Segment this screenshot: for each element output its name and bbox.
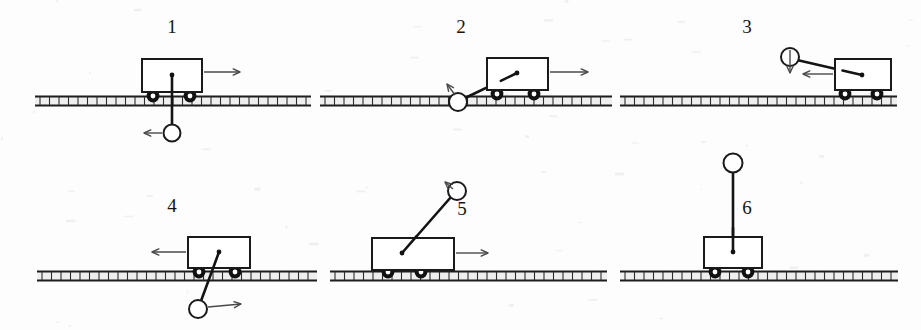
scan-speck <box>701 141 705 143</box>
scan-speck <box>541 171 546 173</box>
rail-body <box>37 272 317 281</box>
scan-speck <box>906 46 909 47</box>
scan-speck <box>864 254 870 257</box>
scan-speck <box>134 9 141 12</box>
cart-body <box>372 238 454 270</box>
panel-number-label: 2 <box>456 16 466 37</box>
cart-wheel-hub-2 <box>532 92 537 97</box>
scan-speck <box>1 137 3 140</box>
scan-speck <box>615 173 624 176</box>
scan-speck <box>56 322 60 323</box>
track-rail-6 <box>620 272 898 281</box>
scan-speck <box>366 187 369 188</box>
cart-wheel-hub-1 <box>713 270 718 275</box>
figure-root: 123456 <box>0 0 921 330</box>
scan-speck <box>506 93 509 95</box>
scan-speck <box>56 0 58 2</box>
scan-speck <box>623 39 631 41</box>
scan-speck <box>588 299 597 301</box>
scan-speck <box>309 243 318 246</box>
scan-speck <box>602 40 611 41</box>
scan-speck <box>414 26 422 27</box>
scan-speck <box>632 143 639 144</box>
scan-speck <box>556 250 562 251</box>
cart-pivot-dot <box>400 251 405 256</box>
panel-number-label: 6 <box>742 197 752 218</box>
scan-speck <box>800 182 803 184</box>
pendulum-ball <box>449 93 467 111</box>
cart-wheel-hub-1 <box>151 94 156 99</box>
scan-speck <box>790 267 799 270</box>
figure-canvas: 123456 <box>0 0 921 330</box>
scan-speck <box>509 304 514 307</box>
scan-speck <box>746 145 749 146</box>
scan-speck <box>285 226 287 229</box>
scan-speck <box>819 155 824 158</box>
scan-speck <box>325 90 332 92</box>
cart-wheel-hub-2 <box>875 92 880 97</box>
track-rail-3 <box>620 97 897 106</box>
scan-speck <box>908 19 913 20</box>
cart-wheel-hub-1 <box>843 92 848 97</box>
scan-speck <box>525 135 529 138</box>
track-rail-4 <box>37 272 317 281</box>
panel-number-label: 3 <box>742 16 752 37</box>
scan-speck <box>453 129 461 131</box>
scan-speck <box>89 71 91 74</box>
cart-wheel-hub-1 <box>495 92 500 97</box>
panel-number-label: 4 <box>167 195 177 216</box>
scan-speck <box>692 51 701 53</box>
scan-speck <box>125 216 133 218</box>
scan-speck <box>356 191 365 193</box>
pendulum-ball <box>164 125 181 142</box>
cart-pivot-dot <box>170 73 175 78</box>
cart-wheel-hub-2 <box>746 270 751 275</box>
scan-speck <box>68 191 75 192</box>
pendulum-ball <box>724 154 743 173</box>
scan-speck <box>550 115 558 117</box>
cart-wheel-hub-2 <box>188 94 193 99</box>
cart-wheel-hub-1 <box>197 270 202 275</box>
cart-pivot-dot <box>860 73 865 78</box>
scan-speck <box>544 19 553 21</box>
scan-speck <box>187 291 189 294</box>
cart-pivot-dot <box>217 250 222 255</box>
scan-speck <box>68 325 71 326</box>
scan-speck <box>678 21 685 23</box>
scan-speck <box>203 148 211 150</box>
pendulum-ball <box>189 300 207 318</box>
scan-speck <box>254 188 260 191</box>
scan-speck <box>578 222 581 223</box>
panel-number-label: 5 <box>457 198 467 219</box>
scan-speck <box>66 220 75 223</box>
rail-body <box>620 272 898 281</box>
cart-wheel-hub-2 <box>233 270 238 275</box>
scan-speck <box>660 318 663 320</box>
scan-speck <box>147 195 153 197</box>
panel-number-label: 1 <box>167 16 177 37</box>
scan-speck <box>33 111 35 113</box>
cart-pivot-dot <box>731 250 736 255</box>
scan-speck <box>701 189 702 191</box>
scan-speck <box>565 0 569 3</box>
cart-pivot-dot <box>515 71 520 76</box>
scan-speck <box>410 57 418 59</box>
track-rail-5 <box>330 272 607 281</box>
